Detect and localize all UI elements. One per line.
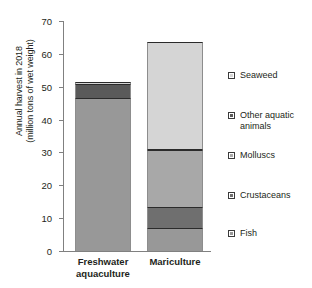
bar-segment[interactable]	[147, 228, 203, 251]
legend-swatch-fill	[229, 113, 234, 118]
bar-segment[interactable]	[147, 150, 203, 207]
legend-swatch-fill	[229, 193, 234, 198]
y-tick-mark: 10	[59, 218, 63, 219]
legend-swatch-icon	[228, 152, 235, 159]
y-tick-mark: 40	[59, 120, 63, 121]
legend-label: Other aquatic animals	[240, 110, 294, 131]
y-tick-label: 20	[41, 180, 52, 191]
legend-label: Crustaceans	[240, 190, 291, 201]
legend-swatch-icon	[228, 72, 235, 79]
y-axis-title-line1: Annual harvest in 2018	[14, 46, 24, 136]
legend-swatch-fill	[229, 153, 234, 158]
legend-item[interactable]: Crustaceans	[228, 190, 291, 201]
bar-stack[interactable]	[75, 82, 131, 251]
legend-swatch-icon	[228, 230, 235, 237]
legend-item[interactable]: Fish	[228, 228, 257, 239]
y-tick-mark: 0	[59, 251, 63, 252]
legend-swatch-icon	[228, 112, 235, 119]
legend-swatch-fill	[229, 73, 234, 78]
x-axis-line	[63, 251, 211, 252]
legend-label: Molluscs	[240, 150, 275, 161]
y-tick-label: 30	[41, 147, 52, 158]
y-tick-label: 50	[41, 81, 52, 92]
y-tick-label: 0	[47, 246, 52, 257]
legend-swatch-icon	[228, 192, 235, 199]
plot-area: 010203040506070 FreshwateraquacultureMar…	[63, 21, 210, 251]
bar-stack[interactable]	[147, 42, 203, 251]
x-axis-label-line2: aquaculture	[61, 268, 145, 280]
x-axis-label: Mariculture	[133, 256, 217, 268]
legend-swatch-fill	[229, 231, 234, 236]
y-tick-label: 70	[41, 16, 52, 27]
bar-segment[interactable]	[75, 98, 131, 251]
bar-segment[interactable]	[147, 207, 203, 228]
y-tick-mark: 30	[59, 152, 63, 153]
legend-label: Fish	[240, 228, 257, 239]
y-tick-mark: 60	[59, 54, 63, 55]
bar-segment[interactable]	[75, 84, 131, 98]
legend-label: Seaweed	[240, 70, 278, 81]
y-tick-label: 40	[41, 114, 52, 125]
y-tick-mark: 20	[59, 185, 63, 186]
y-tick-label: 60	[41, 48, 52, 59]
bar-segment[interactable]	[147, 149, 203, 150]
y-axis-line	[63, 21, 64, 252]
y-axis-title: Annual harvest in 2018 (million tons of …	[14, 0, 36, 186]
bar-segment[interactable]	[75, 82, 131, 84]
legend-item[interactable]: Seaweed	[228, 70, 278, 81]
x-axis-label-line1: Mariculture	[133, 256, 217, 268]
y-tick-mark: 50	[59, 87, 63, 88]
chart-figure: Annual harvest in 2018 (million tons of …	[0, 0, 312, 288]
legend-item[interactable]: Molluscs	[228, 150, 275, 161]
y-axis-title-line2: (million tons of wet weight)	[25, 39, 35, 142]
legend-item[interactable]: Other aquatic animals	[228, 110, 294, 131]
y-tick-label: 10	[41, 213, 52, 224]
bar-segment[interactable]	[147, 42, 203, 149]
y-tick-mark: 70	[59, 21, 63, 22]
